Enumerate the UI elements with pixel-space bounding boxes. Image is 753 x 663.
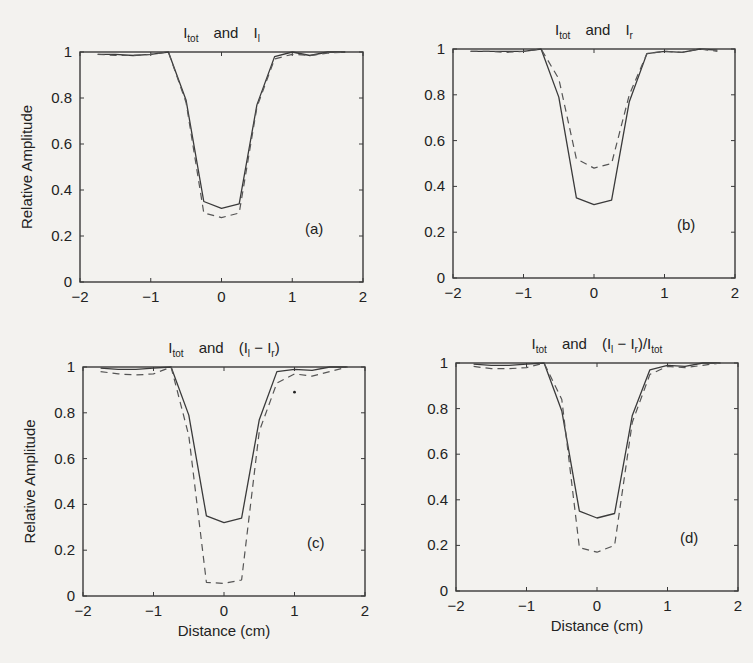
y-tick-label: 0.4 bbox=[51, 181, 72, 198]
x-tick-label: −2 bbox=[74, 602, 91, 619]
axes-frame bbox=[453, 49, 735, 278]
figure-canvas: −2−101200.20.40.60.81Itot and Il(a)Relat… bbox=[0, 0, 753, 663]
x-tick-label: −2 bbox=[447, 597, 464, 614]
axes-frame bbox=[83, 367, 365, 596]
y-tick-label: 1 bbox=[67, 358, 75, 375]
y-tick-label: 0.4 bbox=[54, 495, 75, 512]
panel-d: −2−101200.20.40.60.81Itot and (Il − Ir)/… bbox=[427, 335, 742, 634]
y-tick-label: 0 bbox=[64, 273, 72, 290]
y-tick-label: 0 bbox=[440, 582, 448, 599]
y-tick-label: 0.8 bbox=[54, 404, 75, 421]
series-line-solid bbox=[98, 52, 346, 208]
panel-label: (a) bbox=[305, 220, 323, 237]
series-line-dashed bbox=[474, 363, 721, 552]
panel-title: Itot and (Il − Ir)/Itot bbox=[532, 335, 663, 355]
y-tick-label: 1 bbox=[437, 40, 445, 57]
series-line-solid bbox=[471, 49, 718, 205]
panel-c: −2−101200.20.40.60.81Itot and (Il − Ir)(… bbox=[21, 339, 369, 639]
axes-frame bbox=[456, 363, 738, 591]
x-tick-label: 1 bbox=[290, 602, 298, 619]
x-tick-label: −1 bbox=[518, 597, 535, 614]
x-tick-label: −2 bbox=[444, 284, 461, 301]
panel-title: Itot and Ir bbox=[555, 21, 634, 41]
x-tick-label: −1 bbox=[515, 284, 532, 301]
series-line-solid bbox=[474, 363, 721, 518]
y-tick-label: 0.6 bbox=[54, 450, 75, 467]
series-line-dashed bbox=[471, 49, 718, 168]
stray-dot bbox=[293, 391, 296, 394]
y-tick-label: 0.6 bbox=[424, 132, 445, 149]
x-tick-label: 2 bbox=[731, 284, 739, 301]
y-tick-label: 0.2 bbox=[51, 227, 72, 244]
panel-b: −2−101200.20.40.60.81Itot and Ir(b) bbox=[424, 21, 739, 301]
y-tick-label: 0.6 bbox=[51, 135, 72, 152]
y-tick-label: 1 bbox=[440, 354, 448, 371]
x-tick-label: 1 bbox=[663, 597, 671, 614]
y-tick-label: 0.4 bbox=[424, 177, 445, 194]
x-axis-label: Distance (cm) bbox=[178, 622, 271, 639]
y-tick-label: 0.6 bbox=[427, 445, 448, 462]
y-tick-label: 0.8 bbox=[424, 86, 445, 103]
y-tick-label: 0.2 bbox=[54, 541, 75, 558]
series-line-dashed bbox=[98, 52, 346, 218]
y-tick-label: 0.2 bbox=[427, 536, 448, 553]
panel-title: Itot and Il bbox=[183, 24, 260, 44]
y-tick-label: 1 bbox=[64, 43, 72, 60]
x-tick-label: 1 bbox=[660, 284, 668, 301]
y-tick-label: 0.8 bbox=[427, 400, 448, 417]
panel-label: (c) bbox=[307, 534, 325, 551]
panel-title: Itot and (Il − Ir) bbox=[168, 339, 279, 359]
x-tick-label: 0 bbox=[220, 602, 228, 619]
panel-label: (d) bbox=[680, 529, 698, 546]
x-tick-label: 2 bbox=[361, 602, 369, 619]
x-tick-label: 0 bbox=[590, 284, 598, 301]
axes-frame bbox=[80, 52, 363, 282]
series-line-solid bbox=[101, 367, 348, 523]
x-tick-label: 1 bbox=[288, 288, 296, 305]
y-tick-label: 0.4 bbox=[427, 491, 448, 508]
y-axis-label: Relative Amplitude bbox=[21, 419, 38, 543]
panel-label: (b) bbox=[677, 216, 695, 233]
y-tick-label: 0 bbox=[67, 587, 75, 604]
x-tick-label: 2 bbox=[734, 597, 742, 614]
x-tick-label: −1 bbox=[142, 288, 159, 305]
x-axis-label: Distance (cm) bbox=[551, 617, 644, 634]
panel-a: −2−101200.20.40.60.81Itot and Il(a)Relat… bbox=[18, 24, 367, 305]
y-axis-label: Relative Amplitude bbox=[18, 105, 35, 229]
y-tick-label: 0.8 bbox=[51, 89, 72, 106]
x-tick-label: −1 bbox=[145, 602, 162, 619]
x-tick-label: 2 bbox=[359, 288, 367, 305]
y-tick-label: 0 bbox=[437, 269, 445, 286]
x-tick-label: −2 bbox=[71, 288, 88, 305]
y-tick-label: 0.2 bbox=[424, 223, 445, 240]
x-tick-label: 0 bbox=[593, 597, 601, 614]
x-tick-label: 0 bbox=[217, 288, 225, 305]
